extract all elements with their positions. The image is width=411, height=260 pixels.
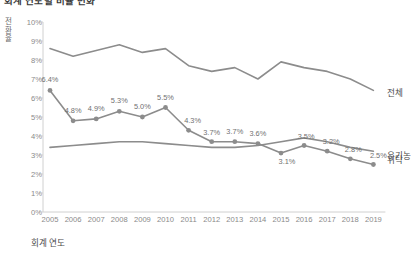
data-point [140,115,145,120]
data-point [325,149,330,154]
data-label: 3.2% [323,137,340,146]
data-label: 3.7% [226,126,243,135]
data-point [71,118,76,123]
data-point [186,128,191,133]
data-point [232,139,237,144]
data-label: 3.6% [249,128,266,137]
data-point [94,117,99,122]
data-label: 4.9% [88,103,105,112]
series-line-전체 [50,45,373,91]
data-label: 4.8% [65,105,82,114]
data-point [371,162,376,167]
data-label: 6.4% [42,75,59,84]
data-point [163,105,168,110]
data-point [348,156,353,161]
data-point [302,143,307,148]
data-label: 5.0% [134,102,151,111]
data-label: 3.7% [203,127,220,136]
data-label: 5.5% [157,92,174,101]
data-point [209,139,214,144]
data-label: 3.1% [279,157,296,166]
data-label: 2.5% [370,150,387,159]
data-label: 4.3% [184,116,201,125]
x-axis-title: 회계 연도 [31,236,65,248]
data-point [279,151,284,156]
data-label: 3.5% [298,131,315,140]
data-label: 5.3% [111,96,128,105]
data-point [117,109,122,114]
series-label-전체: 전체 [387,86,403,98]
data-label: 2.8% [345,144,362,153]
data-point [48,88,53,93]
series-label-위탁: 위탁 [387,153,403,165]
